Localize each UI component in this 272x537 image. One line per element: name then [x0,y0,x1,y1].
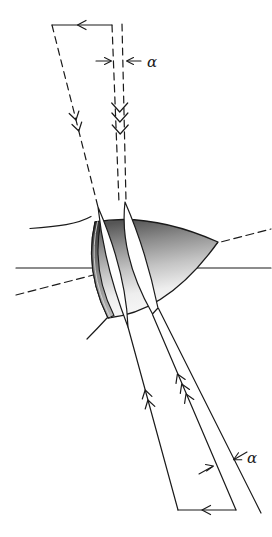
chevron-arrow-icon [112,125,128,134]
solid-ray-left [128,327,178,510]
upper-dashed-rays [52,21,128,208]
chevron-arrow-icon [112,103,128,112]
cone-angle-of-attack-diagram: α α [0,0,272,537]
lower-streamline [87,318,107,339]
upper-alpha-annotation: α [96,53,157,71]
chevron-arrow-icon [112,113,128,122]
solid-ray-pair-left [153,315,237,511]
upper-streamline [30,217,91,229]
solid-ray-pair-right [159,309,262,514]
deflected-dashed-ray [52,25,98,207]
chevron-arrow-icon [180,384,189,393]
dashed-ray-pair-right [122,24,126,201]
lower-alpha-annotation: α [199,449,257,474]
alpha-label-upper: α [147,53,157,71]
lower-solid-rays [128,309,261,515]
diagram-stage: α α [0,0,272,537]
chevron-arrow-icon [176,374,185,383]
alpha-label-lower: α [247,449,257,467]
